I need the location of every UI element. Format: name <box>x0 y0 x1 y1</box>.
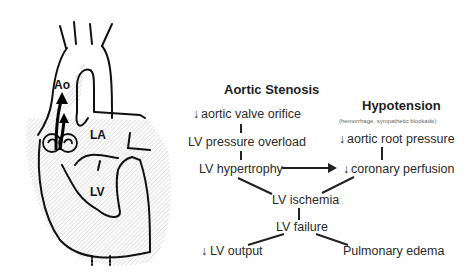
down-arrow-icon: ↓ <box>201 244 207 258</box>
step-lv-ischemia: LV ischemia <box>272 193 339 207</box>
down-arrow-icon: ↓ <box>339 132 345 146</box>
step-aortic-root-pressure: aortic root pressure <box>347 132 455 146</box>
step-lv-output: LV output <box>210 244 263 258</box>
diagram-root: Ao LA LV Aortic Stenosis ↓ aortic valve … <box>0 0 475 277</box>
step-lv-pressure-overload: LV pressure overload <box>188 135 306 149</box>
down-arrow-icon: ↓ <box>343 162 349 176</box>
step-pulmonary-edema: Pulmonary edema <box>343 244 444 258</box>
hypotension-heading: Hypotension <box>362 99 441 113</box>
hypotension-subheading: (hemorrhage, sympathetic blockade) <box>339 114 436 128</box>
aortic-stenosis-heading: Aortic Stenosis <box>224 83 319 97</box>
step-coronary-perfusion: coronary perfusion <box>351 162 455 176</box>
step-aortic-valve-orifice: aortic valve orifice <box>201 107 301 121</box>
down-arrow-icon: ↓ <box>193 107 199 121</box>
step-lv-hypertrophy: LV hypertrophy <box>199 162 283 176</box>
step-lv-failure: LV failure <box>276 220 328 234</box>
